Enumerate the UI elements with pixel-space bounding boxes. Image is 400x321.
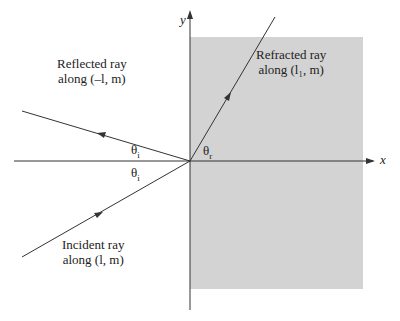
- reflected-ray-label: Reflected ray along (–l, m): [57, 56, 127, 86]
- y-axis-arrow-icon: [187, 10, 193, 19]
- ray-diagram-canvas: [0, 0, 400, 321]
- incident-ray-arrow-icon: [94, 212, 103, 218]
- x-axis-arrow-icon: [366, 158, 375, 164]
- incident-ray-title: Incident ray: [62, 237, 124, 252]
- refracted-ray-label: Refracted ray along (l₁, m): [256, 47, 326, 77]
- angle-theta-i-lower: θi: [131, 165, 140, 183]
- angle-theta-i-upper: θi: [131, 142, 140, 160]
- incident-ray-label: Incident ray along (l, m): [62, 237, 124, 267]
- refracted-ray-direction: along (l₁, m): [256, 62, 326, 77]
- reflected-ray-title: Reflected ray: [57, 56, 127, 71]
- reflected-ray-direction: along (–l, m): [57, 71, 127, 86]
- y-axis-label: y: [180, 12, 186, 28]
- incident-ray-direction: along (l, m): [62, 252, 124, 267]
- x-axis-label: x: [380, 152, 386, 168]
- reflected-ray-arrow-icon: [97, 132, 106, 138]
- reflected-ray: [22, 111, 190, 161]
- refracted-ray-title: Refracted ray: [256, 47, 326, 62]
- angle-theta-r: θr: [203, 143, 212, 161]
